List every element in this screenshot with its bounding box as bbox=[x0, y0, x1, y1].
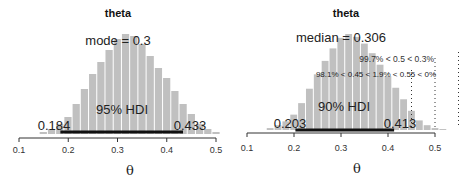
histogram-bar bbox=[147, 56, 154, 134]
histogram-bar bbox=[416, 120, 423, 130]
histogram-bar bbox=[114, 39, 121, 134]
histogram-bar bbox=[424, 125, 431, 130]
hdi-label: 95% HDI bbox=[96, 102, 148, 117]
x-tick-label: 0.1 bbox=[13, 145, 26, 155]
x-tick-label: 0.2 bbox=[288, 143, 301, 153]
panel-title: theta bbox=[333, 7, 360, 19]
x-axis: 0.10.20.30.40.5 bbox=[241, 133, 442, 153]
histogram-bar bbox=[439, 129, 446, 130]
panel-left: 0.10.20.30.40.5 theta mode = 0.3 95% HDI… bbox=[13, 7, 223, 178]
panel-right: 0.10.20.30.40.5 theta median = 0.306 99.… bbox=[241, 7, 459, 176]
histogram-bar bbox=[97, 62, 104, 134]
x-axis-label: θ bbox=[353, 161, 361, 176]
histogram-bar bbox=[163, 78, 170, 134]
histogram-bar bbox=[432, 128, 439, 130]
hdi-low-label: 0.203 bbox=[274, 116, 307, 131]
annotation-rope-2: 98.1% < 0.45 < 1.9% < 0.55 < 0% bbox=[316, 70, 436, 79]
histogram-bar bbox=[267, 128, 274, 130]
median-label: median = 0.306 bbox=[296, 30, 386, 45]
histogram-bar bbox=[155, 68, 162, 134]
histogram-bar bbox=[212, 132, 219, 134]
x-tick-label: 0.4 bbox=[160, 145, 173, 155]
histogram-bar bbox=[138, 44, 145, 134]
histogram-bar bbox=[337, 38, 344, 130]
annotation-rope-1: 99.7% < 0.5 < 0.3% bbox=[359, 54, 434, 64]
histogram-bar bbox=[330, 48, 337, 130]
x-tick-label: 0.3 bbox=[111, 145, 124, 155]
histogram-bar bbox=[345, 34, 352, 130]
histogram-bar bbox=[105, 50, 112, 134]
histogram-bar bbox=[122, 34, 129, 134]
histogram-bar bbox=[81, 89, 88, 134]
panel-title: theta bbox=[105, 7, 132, 19]
x-tick-label: 0.2 bbox=[62, 145, 75, 155]
x-tick-label: 0.5 bbox=[429, 143, 442, 153]
hdi-high-label: 0.433 bbox=[174, 118, 207, 133]
histogram-bar bbox=[353, 37, 360, 130]
hdi-label: 90% HDI bbox=[318, 99, 370, 114]
x-tick-label: 0.5 bbox=[210, 145, 223, 155]
chart-canvas: 0.10.20.30.40.5 theta mode = 0.3 95% HDI… bbox=[0, 0, 474, 183]
x-tick-label: 0.3 bbox=[335, 143, 348, 153]
hdi-low-label: 0.184 bbox=[38, 118, 71, 133]
hdi-high-label: 0.413 bbox=[384, 116, 417, 131]
x-tick-label: 0.1 bbox=[241, 143, 254, 153]
histogram-bar bbox=[306, 89, 313, 130]
x-axis: 0.10.20.30.40.5 bbox=[13, 138, 223, 155]
x-tick-label: 0.4 bbox=[382, 143, 395, 153]
histogram-bar bbox=[130, 36, 137, 134]
histogram-bar bbox=[369, 53, 376, 130]
x-axis-label: θ bbox=[126, 163, 134, 178]
mode-label: mode = 0.3 bbox=[85, 33, 150, 48]
histogram-bar bbox=[73, 104, 80, 134]
